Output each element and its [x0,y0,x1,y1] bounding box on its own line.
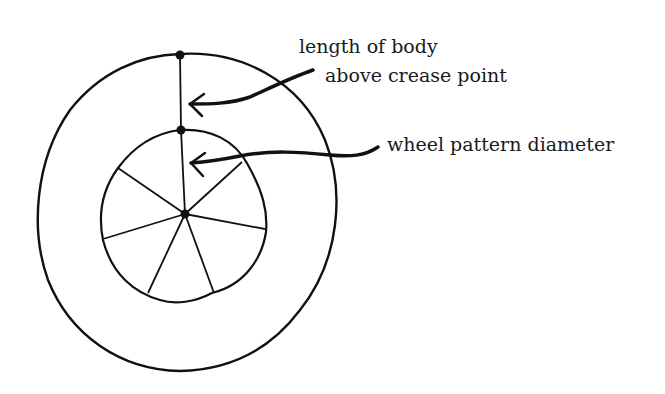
outer-top-point [176,51,185,60]
arrow-wheel-diameter-icon [191,147,378,176]
label-length-of-body: length of body [299,37,438,56]
label-above-crease-point: above crease point [325,66,507,85]
inner-top-point [177,126,186,135]
center-point [181,210,190,219]
wheel-pattern-diagram [0,0,665,394]
body-length-line [180,54,181,130]
radius-line [181,130,185,214]
label-wheel-pattern-diameter: wheel pattern diameter [387,135,614,154]
